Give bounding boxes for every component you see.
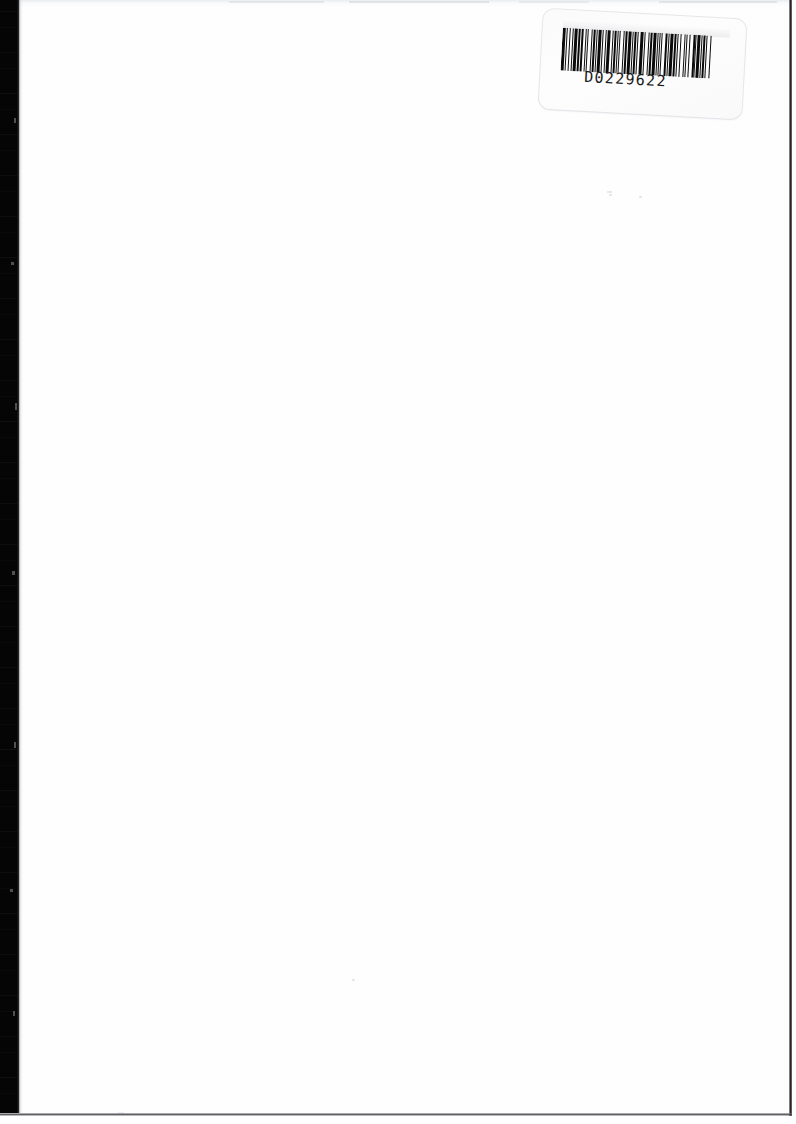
- scan-speck: [639, 196, 642, 198]
- barcode-number: D0229622: [584, 70, 667, 89]
- gutter-feather-edge: [17, 0, 23, 1113]
- page-body: [19, 0, 790, 1115]
- scan-top-haze: [19, 0, 790, 7]
- right-outer-margin: [792, 0, 796, 1124]
- bottom-outer-margin: [0, 1116, 796, 1124]
- scanned-page: D0229622: [0, 0, 796, 1124]
- scan-speck: [352, 979, 355, 981]
- scan-speck: [607, 191, 612, 193]
- barcode-label: D0229622: [538, 9, 746, 120]
- scan-speck: [609, 194, 612, 196]
